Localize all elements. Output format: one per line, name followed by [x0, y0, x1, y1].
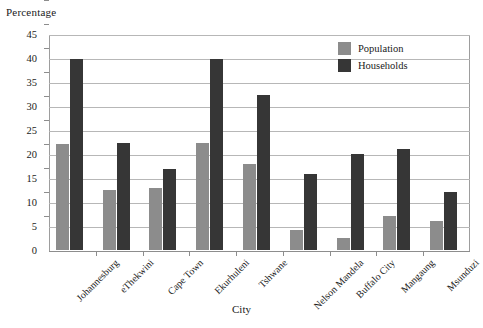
- x-tick-label: Tshwane: [256, 257, 289, 290]
- x-tick-mark: [236, 252, 237, 256]
- bar-households-5: [304, 174, 317, 250]
- bar-households-8: [444, 192, 457, 250]
- legend-item-population: Population: [338, 41, 404, 55]
- legend-label: Population: [358, 43, 404, 54]
- y-tick-label: 40: [1, 54, 37, 65]
- x-tick-label: Mangaung: [398, 257, 436, 295]
- axis-line-right: [469, 35, 470, 252]
- bar-households-6: [351, 154, 364, 250]
- x-tick-label: eThekwini: [118, 257, 156, 295]
- bar-households-3: [210, 59, 223, 250]
- y-tick-label: 10: [1, 198, 37, 209]
- y-tick-mark: [44, 144, 49, 145]
- y-tick-label: 0: [1, 246, 37, 257]
- y-tick-mark: [44, 192, 49, 193]
- x-tick-mark: [189, 252, 190, 256]
- y-tick-mark: [44, 0, 49, 1]
- y-axis-title: Percentage: [6, 6, 56, 18]
- bar-households-2: [163, 169, 176, 250]
- bar-population-5: [290, 230, 303, 250]
- x-tick-label: Johannesburg: [74, 257, 121, 304]
- legend-swatch-population: [338, 42, 351, 55]
- y-tick-label: 5: [1, 222, 37, 233]
- bar-population-0: [56, 144, 69, 250]
- axis-line-left: [49, 35, 50, 252]
- bar-population-2: [149, 188, 162, 250]
- y-tick-mark: [44, 120, 49, 121]
- y-tick-mark: [44, 216, 49, 217]
- chart-legend: PopulationHouseholds: [338, 41, 463, 75]
- gridline: [49, 35, 470, 36]
- x-tick-mark: [330, 252, 331, 256]
- bar-population-3: [196, 143, 209, 250]
- bar-households-0: [70, 59, 83, 250]
- x-tick-mark: [143, 252, 144, 256]
- y-tick-label: 45: [1, 30, 37, 41]
- y-tick-label: 25: [1, 126, 37, 137]
- y-tick-label: 35: [1, 78, 37, 89]
- y-tick-label: 20: [1, 150, 37, 161]
- bar-population-7: [383, 216, 396, 250]
- bar-population-6: [337, 238, 350, 250]
- legend-label: Households: [358, 60, 408, 71]
- y-tick-mark: [44, 168, 49, 169]
- legend-item-households: Households: [338, 58, 408, 72]
- y-tick-mark: [44, 96, 49, 97]
- bar-households-1: [117, 143, 130, 250]
- y-tick-label: 30: [1, 102, 37, 113]
- bar-chart: Percentage 051015202530354045 Johannesbu…: [0, 0, 483, 328]
- bar-population-8: [430, 221, 443, 250]
- x-tick-label: Cape Town: [165, 257, 205, 297]
- bar-households-7: [397, 149, 410, 250]
- x-tick-mark: [96, 252, 97, 256]
- axis-line-bottom: [49, 251, 470, 252]
- gridline: [49, 83, 470, 84]
- y-tick-mark: [44, 24, 49, 25]
- x-axis-title: City: [0, 303, 483, 315]
- bar-population-4: [243, 164, 256, 250]
- x-tick-mark: [423, 252, 424, 256]
- x-tick-mark: [376, 252, 377, 256]
- y-tick-mark: [44, 72, 49, 73]
- y-tick-label: 15: [1, 174, 37, 185]
- bar-households-4: [257, 95, 270, 250]
- x-tick-label: Msunduzi: [444, 257, 480, 293]
- bar-population-1: [103, 190, 116, 250]
- legend-swatch-households: [338, 59, 351, 72]
- y-tick-mark: [44, 48, 49, 49]
- x-tick-label: Ekurhuleni: [212, 257, 251, 296]
- x-tick-mark: [283, 252, 284, 256]
